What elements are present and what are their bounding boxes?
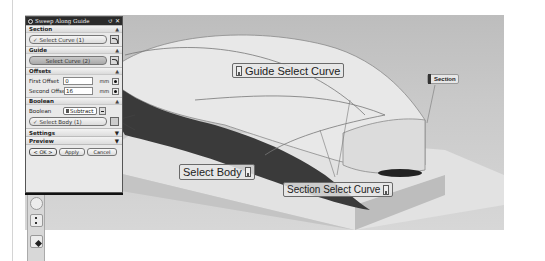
select-guide-curve-button[interactable]: Select Curve (2) <box>29 56 107 65</box>
select-section-curve-button[interactable]: ✓ Select Curve (1) <box>29 35 107 44</box>
list-icon[interactable] <box>30 214 43 227</box>
boolean-field-label: Boolean <box>29 108 61 114</box>
body-rule-icon[interactable] <box>110 117 119 126</box>
boolean-select[interactable]: Subtract <box>63 107 97 115</box>
dialog-titlebar[interactable]: Sweep Along Guide ↺ ✕ <box>26 17 122 25</box>
pin-icon <box>245 167 251 177</box>
resource-bar <box>27 195 45 261</box>
check-icon: ✓ <box>33 119 38 125</box>
boolean-group-body: Boolean Subtract ✓ Select Body (1) <box>26 105 122 128</box>
select-body-label: Select Body (1) <box>40 119 82 125</box>
first-offset-unit: mm <box>96 78 110 84</box>
section-select-curve-callout[interactable]: Section Select Curve <box>283 182 393 197</box>
clock-icon[interactable] <box>30 197 43 210</box>
second-offset-unit: mm <box>96 88 109 94</box>
preview-group-header[interactable]: Preview ▼ <box>26 136 122 144</box>
section-tag[interactable]: Section <box>427 74 459 84</box>
pin-icon <box>383 185 389 195</box>
select-body-button[interactable]: ✓ Select Body (1) <box>29 117 107 126</box>
guide-callout-label: Guide Select Curve <box>245 65 340 77</box>
section-group-header[interactable]: Section ▲ <box>26 25 122 33</box>
section-marker-icon <box>428 74 431 84</box>
section-group-label: Section <box>29 26 52 32</box>
boolean-dropdown-button[interactable] <box>99 107 106 115</box>
boolean-group-header[interactable]: Boolean ▲ <box>26 97 122 105</box>
pin-icon <box>236 66 242 76</box>
page-rule <box>12 0 13 261</box>
offsets-group-body: First Offset 0 mm Second Offset 16 mm <box>26 75 122 97</box>
chevron-up-icon[interactable]: ▲ <box>115 47 119 53</box>
first-offset-options-button[interactable] <box>112 78 119 85</box>
chevron-down-icon[interactable]: ▼ <box>115 130 119 136</box>
chevron-up-icon[interactable]: ▲ <box>115 98 119 104</box>
reset-icon[interactable]: ↺ <box>108 18 113 24</box>
close-icon[interactable]: ✕ <box>115 18 120 24</box>
chevron-down-icon[interactable]: ▼ <box>115 138 119 144</box>
sweep-along-guide-dialog: Sweep Along Guide ↺ ✕ Section ▲ ✓ Select… <box>25 16 123 193</box>
shadow-ellipse <box>378 169 422 177</box>
second-offset-label: Second Offset <box>29 88 61 94</box>
section-group-body: ✓ Select Curve (1) <box>26 33 122 46</box>
app-icon <box>28 19 33 24</box>
section-callout-label: Section Select Curve <box>287 184 380 195</box>
cancel-button[interactable]: Cancel <box>87 148 117 156</box>
section-tag-label: Section <box>434 76 456 82</box>
guide-group-body: Select Curve (2) <box>26 54 122 67</box>
second-offset-input[interactable]: 16 <box>64 87 93 95</box>
dialog-title: Sweep Along Guide <box>35 18 106 24</box>
guide-select-curve-callout[interactable]: Guide Select Curve <box>232 63 344 78</box>
pointer-icon[interactable] <box>30 235 43 248</box>
preview-group-label: Preview <box>29 138 54 144</box>
curve-rule-icon[interactable] <box>110 56 119 65</box>
curve-rule-icon[interactable] <box>110 35 119 44</box>
select-section-curve-label: Select Curve (1) <box>40 37 84 43</box>
leader-line <box>427 85 435 123</box>
subtract-icon <box>66 109 69 113</box>
offsets-group-label: Offsets <box>29 68 51 74</box>
boolean-group-label: Boolean <box>29 98 54 104</box>
chevron-up-icon[interactable]: ▲ <box>115 26 119 32</box>
select-body-callout[interactable]: Select Body <box>179 164 255 180</box>
body-callout-label: Select Body <box>183 166 242 178</box>
select-guide-curve-label: Select Curve (2) <box>46 58 90 64</box>
guide-group-label: Guide <box>29 47 47 53</box>
first-offset-label: First Offset <box>29 78 60 84</box>
guide-group-header[interactable]: Guide ▲ <box>26 46 122 54</box>
settings-group-label: Settings <box>29 130 55 136</box>
boolean-selected-value: Subtract <box>70 108 93 114</box>
check-icon: ✓ <box>33 37 38 43</box>
first-offset-input[interactable]: 0 <box>63 77 92 85</box>
apply-button[interactable]: Apply <box>59 148 85 156</box>
second-offset-options-button[interactable] <box>112 88 119 95</box>
offsets-group-header[interactable]: Offsets ▲ <box>26 67 122 75</box>
dialog-footer: < OK > Apply Cancel <box>26 144 122 159</box>
settings-group-header[interactable]: Settings ▼ <box>26 128 122 136</box>
ok-button[interactable]: < OK > <box>29 148 57 156</box>
chevron-up-icon[interactable]: ▲ <box>115 68 119 74</box>
